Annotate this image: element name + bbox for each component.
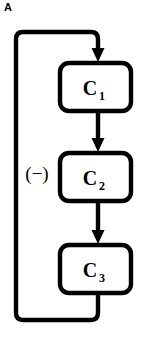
edge-c2-to-c3 bbox=[92, 202, 105, 244]
node-c2[interactable]: C 2 bbox=[60, 153, 131, 201]
node-c3-subscript: 3 bbox=[99, 271, 105, 285]
feedback-arrowhead-icon bbox=[92, 48, 105, 62]
edge-c2-to-c3-arrowhead-icon bbox=[92, 230, 105, 244]
feedback-loop-diagram: (−) C 1 C 2 C 3 bbox=[0, 0, 145, 337]
node-c2-label: C bbox=[83, 167, 97, 189]
node-c1-subscript: 1 bbox=[99, 89, 105, 103]
node-c3[interactable]: C 3 bbox=[60, 245, 131, 293]
feedback-sign-label: (−) bbox=[25, 163, 48, 185]
node-c1[interactable]: C 1 bbox=[60, 63, 131, 111]
node-c2-subscript: 2 bbox=[99, 179, 105, 193]
edge-c1-to-c2-arrowhead-icon bbox=[92, 138, 105, 152]
edge-c1-to-c2 bbox=[92, 112, 105, 152]
node-c1-label: C bbox=[83, 77, 97, 99]
figure-canvas: A (−) C 1 C 2 bbox=[0, 0, 145, 337]
node-c3-label: C bbox=[83, 259, 97, 281]
